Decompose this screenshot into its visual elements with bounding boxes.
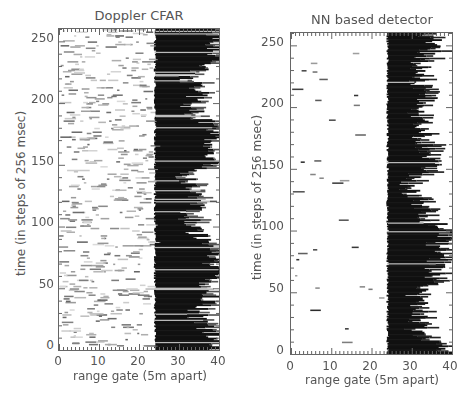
plot-area xyxy=(290,32,453,355)
nn-detector-panel: NN based detector time (in steps of 256 … xyxy=(236,0,476,400)
y-tick: 50 xyxy=(24,277,54,291)
y-tick: 0 xyxy=(254,343,284,357)
chart-title: NN based detector xyxy=(290,12,454,27)
y-tick: 50 xyxy=(254,281,284,295)
x-tick: 30 xyxy=(398,359,422,373)
y-axis-label: time (in steps of 256 msec) xyxy=(250,115,264,280)
x-tick: 20 xyxy=(358,359,382,373)
x-tick: 0 xyxy=(278,359,302,373)
y-tick: 150 xyxy=(254,158,284,172)
x-tick: 10 xyxy=(318,359,342,373)
plot-area xyxy=(58,28,220,351)
x-tick: 40 xyxy=(438,359,462,373)
x-tick: 40 xyxy=(206,354,230,368)
y-axis-label: time (in steps of 256 msec) xyxy=(14,111,28,276)
doppler-cfar-panel: Doppler CFAR time (in steps of 256 msec)… xyxy=(0,0,236,400)
y-tick: 100 xyxy=(254,219,284,233)
x-axis-label: range gate (5m apart) xyxy=(272,373,472,387)
y-tick: 150 xyxy=(24,154,54,168)
x-axis-label: range gate (5m apart) xyxy=(40,369,240,383)
y-tick: 0 xyxy=(24,338,54,352)
x-tick: 20 xyxy=(126,354,150,368)
x-tick: 30 xyxy=(166,354,190,368)
y-tick: 100 xyxy=(24,215,54,229)
chart-title: Doppler CFAR xyxy=(58,8,220,23)
y-tick: 200 xyxy=(24,92,54,106)
y-tick: 200 xyxy=(254,96,284,110)
x-tick: 0 xyxy=(46,354,70,368)
detection-heatmap xyxy=(291,33,452,354)
y-tick: 250 xyxy=(254,35,284,49)
y-tick: 250 xyxy=(24,31,54,45)
x-tick: 10 xyxy=(86,354,110,368)
detection-heatmap xyxy=(59,29,219,350)
